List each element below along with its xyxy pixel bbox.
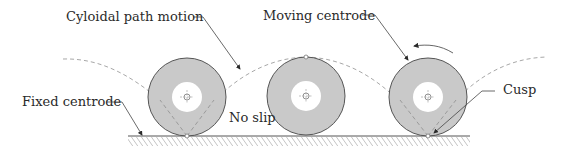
label-no-slip: No slip xyxy=(229,110,276,125)
rotation-arrow-icon xyxy=(414,45,453,53)
label-cusp: Cusp xyxy=(503,82,536,97)
label-moving-centrode: Moving centrode xyxy=(263,8,375,23)
fixed-centrode-ground xyxy=(128,136,470,146)
label-fixed-centrode: Fixed centrode xyxy=(22,94,122,109)
wheel-1 xyxy=(148,58,226,138)
label-cycloid: Cyloidal path motion xyxy=(66,9,204,24)
wheel-2 xyxy=(267,55,345,135)
centrode-diagram: Cyloidal path motion Moving centrode Fix… xyxy=(0,0,570,150)
wheel-3 xyxy=(389,58,467,138)
